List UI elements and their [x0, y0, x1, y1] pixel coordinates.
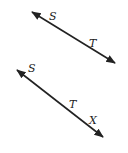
point-label-x: X	[88, 114, 98, 127]
line-1: S T	[32, 10, 115, 63]
geometry-diagram: S T S T X	[0, 0, 128, 153]
point-label-s: S	[49, 10, 57, 23]
line-2: S T X	[17, 62, 103, 137]
point-label-t: T	[69, 98, 78, 111]
point-label-s: S	[28, 62, 36, 75]
point-label-t: T	[89, 37, 98, 50]
